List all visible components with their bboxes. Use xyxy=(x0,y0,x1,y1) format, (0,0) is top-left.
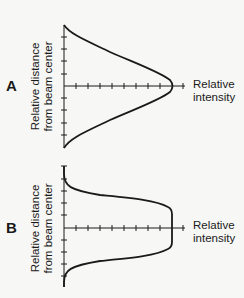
panel-b-flat-top-profile: B Relative distance from beam center Rel… xyxy=(0,150,244,298)
axes-a xyxy=(61,25,185,148)
axes-b xyxy=(61,166,185,287)
flat-top-curve xyxy=(64,166,172,287)
panel-a-gaussian-profile: A Relative distance from beam center Rel… xyxy=(0,0,244,150)
flat-top-plot xyxy=(0,150,244,298)
gaussian-plot xyxy=(0,0,244,150)
